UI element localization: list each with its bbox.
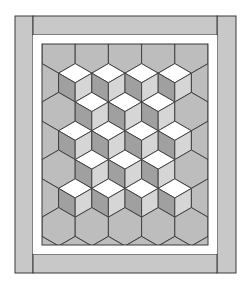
border-strip-right: [217, 16, 236, 273]
border-strip-left: [15, 16, 33, 273]
border-strip-top: [33, 16, 217, 35]
quilt-field: [25, 35, 224, 275]
border-strip-bottom: [33, 254, 217, 273]
quilt-illustration: [0, 0, 248, 290]
